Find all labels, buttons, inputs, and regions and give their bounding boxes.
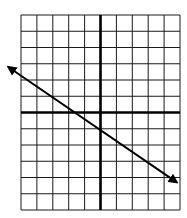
coordinate-graph xyxy=(0,0,187,218)
line-with-arrows xyxy=(8,67,177,182)
plotted-line xyxy=(8,67,177,182)
axes xyxy=(21,15,180,210)
